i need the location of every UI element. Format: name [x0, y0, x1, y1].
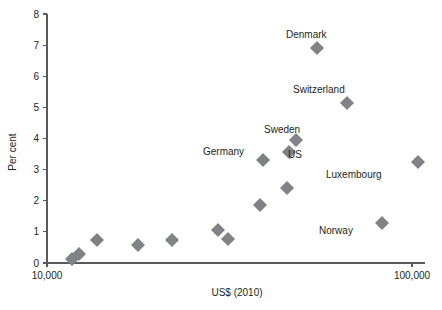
data-point-marker — [131, 238, 145, 252]
data-point-marker — [165, 233, 179, 247]
y-tick-label: 1 — [33, 226, 39, 237]
point-label: Denmark — [286, 29, 328, 40]
y-tick-label: 2 — [33, 195, 39, 206]
axes — [47, 14, 425, 263]
x-tick-label: 100,000 — [394, 270, 431, 281]
x-axis-title: US$ (2010) — [211, 287, 262, 298]
point-label: Luxembourg — [326, 169, 382, 180]
data-point-marker — [256, 153, 270, 167]
data-point-marker — [280, 181, 294, 195]
scatter-chart: 012345678 10,000100,000 DenmarkSwitzerla… — [0, 0, 442, 310]
y-tick-label: 7 — [33, 40, 39, 51]
data-point-marker — [289, 133, 303, 147]
point-label: US — [288, 149, 302, 160]
data-point-marker — [411, 155, 425, 169]
data-point-marker — [221, 232, 235, 246]
data-point-marker — [253, 198, 267, 212]
point-label: Germany — [203, 146, 244, 157]
y-tick-label: 0 — [33, 258, 39, 269]
y-tick-label: 5 — [33, 102, 39, 113]
y-axis-ticks: 012345678 — [33, 9, 47, 269]
y-tick-label: 8 — [33, 9, 39, 20]
plot-area: 012345678 10,000100,000 DenmarkSwitzerla… — [0, 0, 442, 310]
y-tick-label: 6 — [33, 71, 39, 82]
point-label: Sweden — [264, 124, 300, 135]
point-label: Norway — [319, 225, 353, 236]
data-point-marker — [340, 96, 354, 110]
data-point-marker — [375, 216, 389, 230]
data-points — [65, 41, 425, 266]
y-tick-label: 3 — [33, 164, 39, 175]
point-annotations: DenmarkSwitzerlandSwedenGermanyUSLuxembo… — [203, 29, 382, 236]
data-point-marker — [90, 233, 104, 247]
x-tick-label: 10,000 — [32, 270, 63, 281]
y-axis-title: Per cent — [7, 133, 18, 170]
data-point-marker — [211, 223, 225, 237]
data-point-marker — [310, 41, 324, 55]
point-label: Switzerland — [293, 84, 345, 95]
x-axis-ticks: 10,000100,000 — [32, 263, 431, 281]
y-tick-label: 4 — [33, 133, 39, 144]
